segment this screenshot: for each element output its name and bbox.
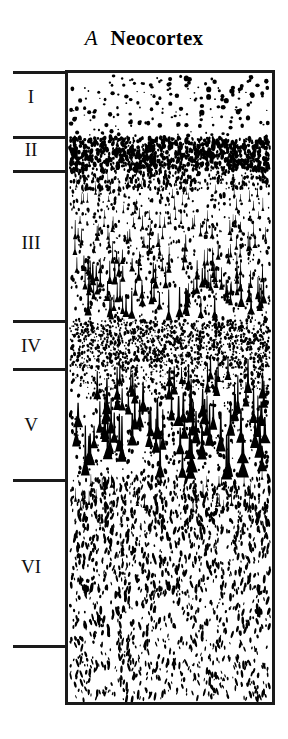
layer-label-iii: III: [0, 233, 62, 252]
layer-label-ii: II: [0, 140, 62, 159]
neocortex-micrograph: [65, 70, 275, 705]
panel-letter: A: [85, 26, 98, 50]
nissl-stain-canvas: [68, 73, 272, 702]
layer-label-column: IIIIIIIVVVI: [0, 60, 66, 710]
neocortex-figure: ANeocortex IIIIIIIVVVI: [0, 0, 288, 739]
layer-label-i: I: [0, 87, 62, 106]
layer-label-iv: IV: [0, 336, 62, 355]
page-title: Neocortex: [111, 26, 204, 50]
figure-title: ANeocortex: [0, 26, 288, 51]
layer-label-vi: VI: [0, 557, 62, 576]
layer-label-v: V: [0, 415, 62, 434]
